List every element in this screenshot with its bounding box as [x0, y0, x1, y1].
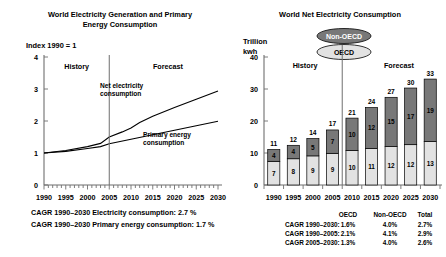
right-y-tick-label: 40	[250, 53, 258, 62]
left-x-tick-labels: 199019952000200520102015202020252030	[36, 193, 226, 202]
right-y-tick-label: 20	[250, 117, 258, 126]
left-era-history-label: History	[64, 62, 89, 71]
left-data-lines	[44, 91, 218, 153]
bar-value-non-oecd: 19	[427, 107, 435, 114]
left-x-tick-label: 1995	[58, 193, 74, 202]
left-era-forecast-label: Forecast	[153, 62, 184, 71]
left-series-label-primary-energy-line1: Primary energy	[143, 131, 191, 139]
bar-total-label: 11	[270, 140, 277, 147]
bar-value-non-oecd: 10	[348, 131, 356, 138]
bar-total-label: 14	[309, 129, 317, 136]
right-x-tick-label: 2010	[344, 193, 360, 202]
left-y-axis-caption: Index 1990 = 1	[26, 41, 76, 50]
left-y-tick-label: 1	[34, 149, 38, 158]
left-x-tick-label: 2000	[80, 193, 96, 202]
cagr-row-label: CAGR 2005–2030:	[285, 239, 340, 246]
cagr-cell-value: 2.9%	[418, 230, 433, 237]
left-footnote-primary-energy: CAGR 1990–2030 Primary energy consumptio…	[31, 220, 215, 229]
right-stacked-bars: 7411841295149717101021111224121527121730…	[268, 70, 437, 185]
cagr-row-label: CAGR 1990–2005:	[285, 230, 340, 237]
right-panel-title: World Net Electricity Consumption	[279, 10, 401, 19]
cagr-column-header: Total	[418, 211, 433, 218]
right-x-tick-label: 1995	[285, 193, 301, 202]
bar-value-oecd: 9	[311, 167, 315, 174]
left-x-tick-label: 2025	[188, 193, 204, 202]
left-series-primary-energy	[44, 121, 218, 153]
left-y-tick-label: 3	[34, 85, 38, 94]
left-footnote-electricity: CAGR 1990–2030 Electricity consumption: …	[31, 208, 197, 217]
cagr-cell-value: 1.6%	[341, 221, 356, 228]
right-x-tick-labels: 199019952000200520102015202020252030	[266, 193, 438, 202]
bar-value-non-oecd: 15	[388, 118, 396, 125]
bar-value-non-oecd: 17	[407, 113, 415, 120]
oecd-bubble-label: OECD	[334, 49, 354, 56]
left-panel-title-line1: World Electricity Generation and Primary	[48, 10, 193, 19]
right-y-tick-label: 10	[250, 149, 258, 158]
cagr-cell-value: 1.3%	[341, 239, 356, 246]
right-x-tick-label: 2015	[364, 193, 380, 202]
figure-container: World Electricity Generation and Primary…	[0, 0, 446, 257]
legend-non-oecd[interactable]: Non-OECD	[317, 29, 371, 44]
left-y-tick-label: 4	[34, 53, 38, 62]
right-x-tick-label: 2000	[305, 193, 321, 202]
legend-oecd[interactable]: OECD	[317, 45, 371, 60]
bar-value-oecd: 13	[427, 160, 435, 167]
bar-total-label: 30	[407, 79, 415, 86]
right-x-tick-label: 2025	[403, 193, 419, 202]
bar-value-oecd: 7	[272, 170, 276, 177]
bar-value-oecd: 9	[331, 166, 335, 173]
left-y-tick-label: 0	[34, 181, 38, 190]
left-x-tick-label: 2015	[145, 193, 161, 202]
left-x-tick-label: 2020	[167, 193, 183, 202]
right-y-tick-labels: 010203040	[250, 53, 258, 190]
bar-value-oecd: 12	[388, 162, 396, 169]
bar-total-label: 24	[368, 98, 376, 105]
left-axes	[44, 55, 222, 190]
cagr-cell-value: 4.1%	[383, 230, 398, 237]
right-era-history-label: History	[293, 61, 318, 70]
left-panel-title-line2: Energy Consumption	[83, 20, 158, 29]
left-x-tick-label: 1990	[36, 193, 52, 202]
cagr-cell-value: 2.1%	[341, 230, 356, 237]
left-x-tick-label: 2010	[123, 193, 139, 202]
left-series-label-net-electricity-line2: consumption	[100, 90, 141, 98]
bar-total-label: 27	[387, 88, 395, 95]
cagr-column-header: Non-OECD	[373, 211, 406, 218]
cagr-cell-value: 4.0%	[383, 221, 398, 228]
cagr-row-label: CAGR 1990–2030:	[285, 221, 340, 228]
bar-value-non-oecd: 7	[331, 138, 335, 145]
right-x-tick-label: 1990	[266, 193, 282, 202]
bar-total-label: 12	[290, 136, 298, 143]
cagr-cell-value: 4.0%	[383, 239, 398, 246]
right-x-tick-label: 2020	[383, 193, 399, 202]
right-x-tick-label: 2030	[422, 193, 438, 202]
left-y-tick-labels: 01234	[34, 53, 38, 190]
bar-value-non-oecd: 4	[272, 152, 276, 159]
two-panel-chart-figure: World Electricity Generation and Primary…	[0, 0, 446, 257]
cagr-table: OECDNon-OECDTotalCAGR 1990–2030:1.6%4.0%…	[285, 211, 433, 246]
left-panel: World Electricity Generation and Primary…	[26, 10, 226, 229]
bar-value-non-oecd: 4	[292, 148, 296, 155]
left-x-tick-label: 2005	[101, 193, 117, 202]
left-y-tick-label: 2	[34, 117, 38, 126]
right-x-tick-label: 2005	[324, 193, 340, 202]
bar-total-label: 33	[427, 70, 435, 77]
right-y-tick-label: 0	[254, 181, 258, 190]
left-series-net-electricity	[44, 91, 218, 153]
bar-value-oecd: 12	[407, 161, 415, 168]
cagr-cell-value: 2.6%	[418, 239, 433, 246]
left-series-label-primary-energy-line2: consumption	[143, 139, 184, 147]
right-panel: World Net Electricity Consumption Trilli…	[243, 10, 442, 246]
left-x-tick-label: 2030	[210, 193, 226, 202]
bar-total-label: 21	[348, 109, 356, 116]
bar-value-non-oecd: 12	[368, 124, 376, 131]
right-era-forecast-label: Forecast	[384, 61, 415, 70]
non-oecd-bubble-label: Non-OECD	[326, 33, 362, 40]
bar-total-label: 17	[329, 120, 337, 127]
bar-value-non-oecd: 5	[311, 144, 315, 151]
bar-value-oecd: 8	[292, 168, 296, 175]
left-series-label-net-electricity-line1: Net electricity	[100, 82, 144, 90]
bar-value-oecd: 11	[368, 163, 375, 170]
bar-value-oecd: 10	[348, 164, 356, 171]
right-y-tick-label: 30	[250, 85, 258, 94]
